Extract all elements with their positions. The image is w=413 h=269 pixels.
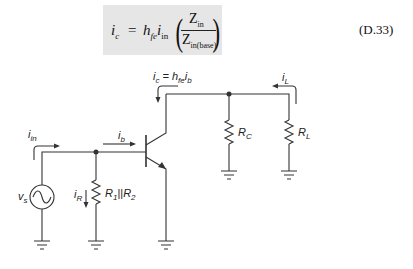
transistor-collector: [146, 94, 166, 145]
label-ic: ic = hfeib: [153, 70, 192, 85]
resistor-bias-icon: [92, 180, 100, 204]
resistor-rl-icon: [285, 120, 293, 144]
wire-source-top: [42, 152, 146, 185]
sine-wave-icon: [33, 191, 51, 203]
label-r1-r2: R1||R2: [105, 187, 136, 202]
label-iin: iin: [28, 128, 37, 143]
junction-dot-collector: [227, 92, 232, 97]
resistor-rc-icon: [225, 120, 233, 144]
label-rc: RC: [238, 126, 252, 141]
label-il: iL: [282, 71, 289, 86]
ground-icon-bias: [88, 241, 104, 249]
arrowhead-il: [272, 84, 278, 89]
ground-icon-emitter: [158, 241, 174, 249]
circuit-diagram: iin ib ic = hfeib iL iR vs R1||R2 RC RL: [0, 0, 413, 269]
junction-dot-base: [94, 150, 99, 155]
label-rl: RL: [298, 126, 310, 141]
wire-top-rail: [166, 94, 289, 120]
label-vs: vs: [18, 190, 28, 205]
ground-icon-rc: [221, 171, 237, 179]
arrowhead-ic: [156, 97, 161, 103]
arrowhead-ir: [84, 202, 89, 208]
arrowhead-ib: [130, 142, 136, 147]
ground-icon-source: [34, 241, 50, 249]
arrow-il-icon: [274, 86, 296, 104]
label-ir: iR: [74, 188, 82, 203]
arrowhead-iin: [54, 144, 60, 149]
transistor-emitter: [146, 157, 166, 241]
ground-icon-rl: [281, 171, 297, 179]
label-ib: ib: [118, 129, 125, 144]
